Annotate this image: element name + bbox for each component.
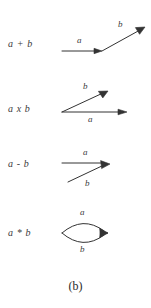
edge-label-multiplication-b: b bbox=[83, 82, 88, 91]
multiplication-edge-b bbox=[62, 93, 103, 112]
figure-caption: (b) bbox=[0, 280, 151, 292]
operation-label-addition: a + b bbox=[8, 39, 33, 49]
addition-arrowhead-a bbox=[94, 48, 102, 53]
diagram-addition bbox=[62, 27, 145, 54]
edge-label-star-b: b bbox=[80, 245, 85, 254]
star-arc-b bbox=[62, 233, 104, 243]
edge-label-addition-a: a bbox=[77, 36, 82, 45]
multiplication-arrowhead-a bbox=[118, 109, 127, 115]
addition-edge-b bbox=[102, 30, 140, 51]
subtraction-arrowhead-shared bbox=[101, 161, 110, 169]
figure-panel: a + b a x b a - b a * b a b b a a b a b … bbox=[0, 0, 151, 308]
star-arc-a bbox=[62, 223, 104, 233]
operation-label-star: a * b bbox=[8, 228, 31, 238]
edge-label-subtraction-b: b bbox=[85, 179, 90, 188]
edge-label-subtraction-a: a bbox=[83, 148, 88, 157]
operation-label-multiplication: a x b bbox=[8, 104, 30, 114]
addition-arrowhead-b bbox=[135, 27, 145, 34]
operation-label-subtraction: a - b bbox=[8, 159, 29, 169]
edge-label-multiplication-a: a bbox=[88, 115, 93, 124]
edge-label-addition-b: b bbox=[118, 20, 123, 29]
diagram-star bbox=[62, 223, 108, 242]
diagram-multiplication bbox=[62, 91, 127, 115]
edge-label-star-a: a bbox=[80, 208, 85, 217]
